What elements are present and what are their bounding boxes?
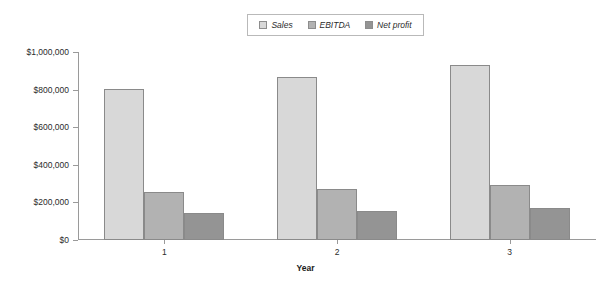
bar-net-profit-year-2: [357, 211, 397, 240]
legend-swatch-sales: [259, 21, 267, 29]
x-axis-title: Year: [0, 263, 611, 273]
bar-ebitda-year-2: [317, 189, 357, 240]
x-axis-tick: [510, 240, 511, 244]
bar-sales-year-3: [450, 65, 490, 240]
legend-entry-sales: Sales: [259, 21, 292, 30]
y-axis-tick-label: $800,000: [0, 85, 69, 95]
legend-label-ebitda: EBITDA: [320, 21, 351, 30]
x-axis-tick: [337, 240, 338, 244]
x-axis-category-label: 3: [507, 247, 512, 257]
bar-net-profit-year-1: [184, 213, 224, 240]
bar-sales-year-2: [277, 77, 317, 240]
plot-area: [78, 52, 596, 240]
x-axis-category-label: 2: [335, 247, 340, 257]
y-axis-tick: [73, 240, 78, 241]
y-axis-tick-label: $1,000,000: [0, 47, 69, 57]
bar-ebitda-year-1: [144, 192, 184, 240]
y-axis-tick-label: $200,000: [0, 197, 69, 207]
y-axis-tick-label: $600,000: [0, 122, 69, 132]
legend-label-net-profit: Net profit: [377, 21, 412, 30]
chart-legend: Sales EBITDA Net profit: [247, 14, 424, 36]
legend-label-sales: Sales: [271, 21, 292, 30]
y-axis-tick-label: $400,000: [0, 160, 69, 170]
legend-swatch-net-profit: [365, 21, 373, 29]
x-axis-category-label: 1: [162, 247, 167, 257]
bar-ebitda-year-3: [490, 185, 530, 240]
bar-net-profit-year-3: [530, 208, 570, 240]
legend-entry-net-profit: Net profit: [365, 21, 412, 30]
bar-sales-year-1: [104, 89, 144, 240]
x-axis-tick: [164, 240, 165, 244]
legend-entry-ebitda: EBITDA: [308, 21, 351, 30]
legend-swatch-ebitda: [308, 21, 316, 29]
y-axis-tick-label: $0: [0, 235, 69, 245]
